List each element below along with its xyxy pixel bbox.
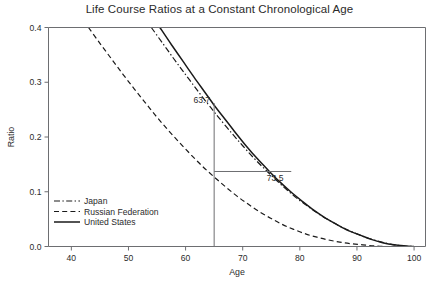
y-tick-label: 0.3	[30, 77, 42, 87]
x-tick-label: 90	[352, 253, 362, 263]
legend-label-russian-federation: Russian Federation	[84, 207, 159, 217]
x-tick-label: 70	[238, 253, 248, 263]
y-tick-label: 0.4	[30, 23, 42, 33]
y-axis-title: Ratio	[6, 127, 16, 148]
y-tick-label: 0.1	[30, 187, 42, 197]
legend-label-japan: Japan	[84, 196, 108, 206]
series-line-united-states	[160, 28, 414, 247]
series-line-japan	[151, 28, 414, 247]
x-tick-label: 40	[67, 253, 77, 263]
y-tick-label: 0.0	[30, 242, 42, 252]
annotation-label-lower: 73.5	[267, 173, 284, 183]
y-tick-label: 0.2	[30, 132, 42, 142]
legend-label-united-states: United States	[84, 217, 136, 227]
annotation-label-upper: 63.7	[193, 95, 210, 105]
x-tick-label: 80	[295, 253, 305, 263]
x-axis-title: Age	[229, 267, 245, 277]
x-tick-label: 100	[407, 253, 422, 263]
line-chart-plot: 63.773.5 0.00.10.20.30.4405060708090100 …	[0, 0, 439, 288]
annotation-group: 63.773.5	[193, 95, 291, 246]
x-tick-label: 60	[181, 253, 191, 263]
chart-figure: Life Course Ratios at a Constant Chronol…	[0, 0, 439, 288]
chart-legend: JapanRussian FederationUnited States	[54, 196, 159, 227]
x-tick-label: 50	[124, 253, 134, 263]
